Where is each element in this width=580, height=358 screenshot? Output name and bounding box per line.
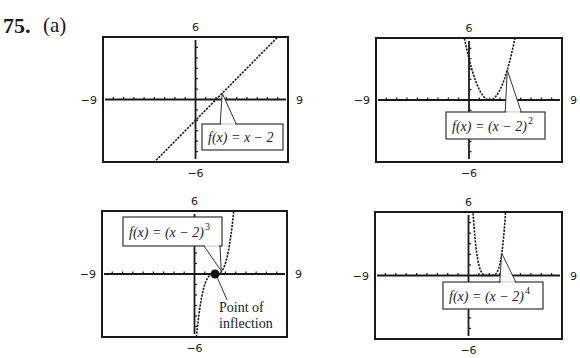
xmin-label: −9 [80, 268, 96, 281]
xmax-label: 9 [570, 94, 577, 107]
xmax-label: 9 [296, 94, 303, 107]
function-exponent: 2 [528, 115, 533, 126]
xmin-label: −9 [353, 270, 369, 283]
function-label: f(x) = (x − 2) [129, 225, 204, 241]
function-exponent: 4 [525, 285, 530, 296]
callout-pointer [220, 93, 236, 124]
ymax-label: 6 [191, 195, 198, 208]
function-label: f(x) = (x − 2) [449, 289, 524, 305]
ymax-label: 6 [466, 22, 473, 35]
function-label: f(x) = x − 2 [208, 130, 274, 146]
annotation-line1: Point of [219, 300, 264, 315]
graph-cube: 6−6−99f(x) = (x − 2)3Point ofinflection [80, 195, 302, 355]
function-exponent: 3 [205, 221, 210, 232]
graphs-canvas: 6−6−99f(x) = x − 2 6−6−99f(x) = (x − 2)2… [0, 0, 580, 358]
graph-linear: 6−6−99f(x) = x − 2 [81, 21, 303, 180]
ymin-label: −6 [186, 342, 202, 355]
ymin-label: −6 [187, 167, 203, 180]
function-label: f(x) = (x − 2) [452, 119, 527, 135]
callout-pointer [204, 246, 221, 271]
ymax-label: 6 [192, 21, 199, 34]
ymax-label: 6 [465, 196, 472, 209]
inflection-point-marker [211, 270, 220, 279]
callout-pointer [500, 253, 516, 282]
xmin-label: −9 [81, 94, 97, 107]
annotation-line2: inflection [219, 316, 273, 331]
ymin-label: −6 [461, 167, 477, 180]
graph-square: 6−6−99f(x) = (x − 2)2 [354, 22, 577, 180]
xmax-label: 9 [295, 268, 302, 281]
callout-pointer [505, 70, 521, 112]
annotation-leader [217, 277, 227, 300]
xmax-label: 9 [570, 270, 577, 283]
graph-fourth: 6−6−99f(x) = (x − 2)4 [353, 196, 577, 357]
ymin-label: −6 [460, 344, 476, 357]
xmin-label: −9 [354, 94, 370, 107]
